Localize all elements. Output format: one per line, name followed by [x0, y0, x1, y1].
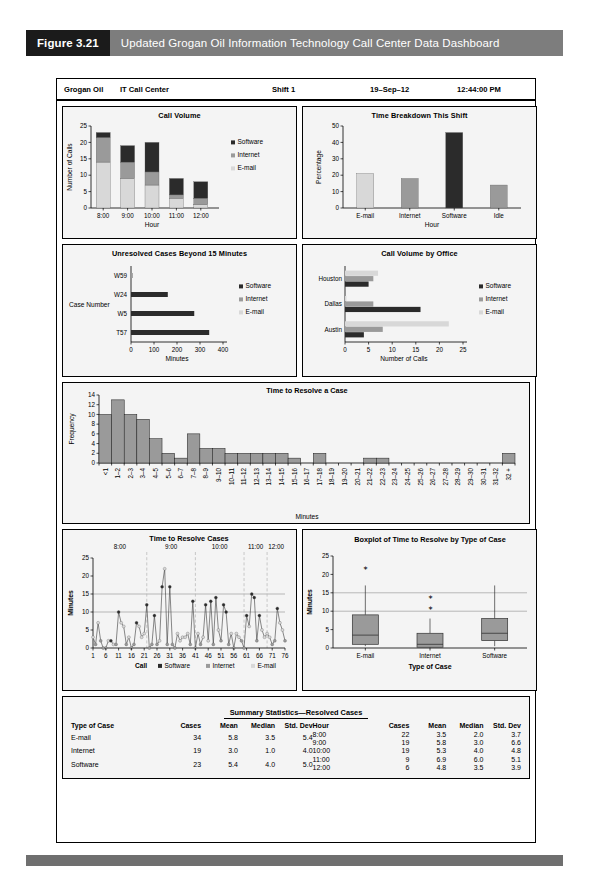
- svg-text:∗: ∗: [428, 604, 433, 611]
- svg-text:Software: Software: [486, 282, 512, 289]
- svg-text:Internet: Internet: [246, 295, 268, 302]
- table-cell: 10:00: [313, 747, 373, 755]
- svg-text:Time to Resolve a Case: Time to Resolve a Case: [266, 386, 347, 395]
- svg-text:21: 21: [141, 652, 149, 659]
- svg-text:Minutes: Minutes: [67, 590, 74, 616]
- svg-text:Minutes: Minutes: [295, 513, 319, 520]
- svg-text:Dallas: Dallas: [325, 300, 343, 307]
- panel-time-to-resolve-hist: Time to Resolve a Case02468101214<11–22–…: [62, 382, 530, 524]
- svg-text:Internet: Internet: [419, 652, 441, 659]
- table-cell: 1.0: [238, 744, 275, 758]
- svg-text:5–6: 5–6: [165, 468, 172, 479]
- panel-time-to-resolve-cases: Time to Resolve Cases8:009:0010:0011:001…: [62, 529, 297, 691]
- svg-text:5: 5: [325, 626, 329, 633]
- svg-text:Frequency: Frequency: [68, 413, 76, 445]
- table-cell: 6.0: [446, 755, 483, 763]
- svg-text:10:00: 10:00: [212, 543, 228, 550]
- table-cell: Internet: [71, 744, 164, 758]
- table-cell: 9: [372, 755, 409, 763]
- svg-text:0: 0: [85, 644, 89, 651]
- svg-text:0: 0: [83, 204, 87, 211]
- table-cell: 5.8: [201, 731, 238, 745]
- svg-text:20–21: 20–21: [354, 468, 361, 486]
- table-row: Software235.44.05.0: [71, 758, 313, 772]
- table-cell: 4.0: [446, 747, 483, 755]
- chart-title-call-volume: Call Volume: [63, 107, 296, 120]
- svg-text:27–28: 27–28: [442, 468, 449, 486]
- svg-text:E-mail: E-mail: [258, 662, 277, 669]
- chart-time-to-resolve-histogram: Time to Resolve a Case02468101214<11–22–…: [63, 383, 531, 523]
- table-cell: Software: [71, 758, 164, 772]
- svg-text:13–14: 13–14: [265, 468, 272, 486]
- table-cell: 8:00: [313, 731, 373, 739]
- panel-boxplot: Boxplot of Time to Resolve by Type of Ca…: [302, 529, 537, 691]
- svg-text:14: 14: [88, 391, 96, 398]
- figure-number: Figure 3.21: [26, 30, 110, 56]
- svg-text:100: 100: [149, 346, 160, 353]
- summary-table-by-type: Type of CaseCasesMeanMedianStd. Dev E-ma…: [71, 722, 313, 771]
- svg-text:25: 25: [80, 122, 88, 129]
- chart-row-3: Time to Resolve a Case02468101214<11–22–…: [62, 382, 530, 524]
- dashboard-body: Call Volume 05101520258:009:0010:0011:00…: [57, 101, 535, 783]
- svg-text:23–24: 23–24: [391, 468, 398, 486]
- svg-text:22–23: 22–23: [379, 468, 386, 486]
- svg-text:300: 300: [195, 346, 206, 353]
- chart-call-volume: 05101520258:009:0010:0011:0012:00HourNum…: [63, 120, 296, 238]
- chart-time-to-resolve-cases: Time to Resolve Cases8:009:0010:0011:001…: [63, 530, 296, 690]
- svg-text:0: 0: [325, 644, 329, 651]
- table-cell: 3.5: [446, 763, 483, 771]
- svg-text:Software: Software: [165, 662, 191, 669]
- svg-text:Internet: Internet: [486, 295, 508, 302]
- svg-text:41: 41: [192, 652, 200, 659]
- svg-text:30: 30: [332, 155, 340, 162]
- svg-text:Austin: Austin: [324, 326, 342, 333]
- header-shift: Shift 1: [272, 85, 295, 94]
- svg-text:200: 200: [172, 346, 183, 353]
- table-row: E-mail345.83.55.4: [71, 731, 313, 745]
- svg-text:14–15: 14–15: [278, 468, 285, 486]
- table-row: 10:00195.34.04.8: [313, 747, 521, 755]
- chart-title-unresolved-cases: Unresolved Cases Beyond 15 Minutes: [63, 245, 296, 258]
- svg-text:12–13: 12–13: [253, 468, 260, 486]
- table-cell: 34: [164, 731, 201, 745]
- svg-text:51: 51: [217, 652, 225, 659]
- svg-text:W24: W24: [114, 291, 127, 298]
- table-header-row: HourCasesMeanMedianStd. Dev: [313, 722, 521, 731]
- chart-unresolved-cases: 0100200300400T57W5W24W59MinutesCase Numb…: [63, 258, 296, 376]
- svg-text:Call: Call: [135, 662, 147, 669]
- table-header-cell: Mean: [409, 722, 446, 731]
- table-row: Internet193.01.04.0: [71, 744, 313, 758]
- svg-text:15: 15: [322, 589, 330, 596]
- table-header-cell: Median: [238, 722, 275, 731]
- svg-text:11–12: 11–12: [240, 468, 247, 486]
- svg-text:E-mail: E-mail: [246, 308, 265, 315]
- svg-text:20: 20: [332, 171, 340, 178]
- figure-title: Updated Grogan Oil Information Technolog…: [110, 30, 563, 56]
- table-cell: 4.0: [238, 758, 275, 772]
- svg-text:19–20: 19–20: [341, 468, 348, 486]
- header-company: Grogan Oil: [64, 85, 103, 94]
- svg-text:2–3: 2–3: [127, 468, 134, 479]
- header-time: 12:44:00 PM: [457, 85, 501, 94]
- svg-text:400: 400: [218, 346, 229, 353]
- svg-text:E-mail: E-mail: [356, 652, 374, 659]
- svg-text:6: 6: [104, 652, 108, 659]
- table-header-cell: Cases: [164, 722, 201, 731]
- table-header-cell: Median: [446, 722, 483, 731]
- table-cell: E-mail: [71, 731, 164, 745]
- svg-text:5: 5: [367, 346, 371, 353]
- table-cell: 19: [372, 739, 409, 747]
- svg-text:0: 0: [343, 346, 347, 353]
- svg-text:T57: T57: [116, 329, 127, 336]
- table-row: 9:00195.83.06.6: [313, 739, 521, 747]
- svg-text:20: 20: [322, 571, 330, 578]
- svg-text:Software: Software: [442, 212, 467, 219]
- svg-text:5: 5: [85, 626, 89, 633]
- chart-call-volume-by-office: 0510152025AustinDallasHoustonNumber of C…: [303, 258, 536, 376]
- svg-text:0: 0: [91, 459, 95, 466]
- svg-text:Hour: Hour: [145, 221, 160, 228]
- svg-text:W5: W5: [118, 310, 128, 317]
- table-row: 12:0064.83.53.9: [313, 763, 521, 771]
- svg-text:40: 40: [332, 139, 340, 146]
- svg-text:10: 10: [88, 411, 96, 418]
